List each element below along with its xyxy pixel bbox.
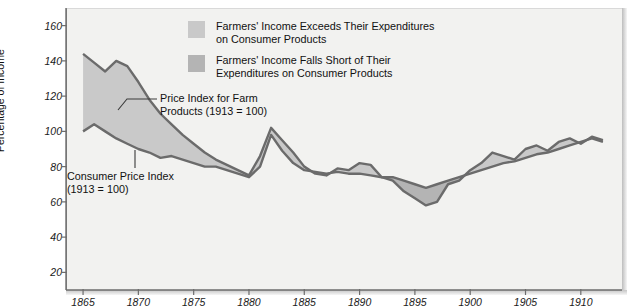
panel-bevel-bottom (66, 290, 627, 295)
panel-bevel-right (622, 8, 627, 294)
x-axis-ticks: 1865187018751880188518901895190019051910 (66, 296, 622, 308)
legend-label-income-exceeds: Farmers' Income Exceeds Their Expenditur… (216, 20, 438, 45)
y-tick-label: 120 (44, 90, 62, 102)
chart-legend: Farmers' Income Exceeds Their Expenditur… (188, 20, 438, 88)
x-tick-label: 1865 (71, 296, 94, 308)
y-tick-label: 40 (50, 231, 62, 243)
legend-swatch-income-exceeds (188, 21, 205, 38)
legend-item: Farmers' Income Exceeds Their Expenditur… (188, 20, 438, 45)
legend-item: Farmers' Income Falls Short of Their Exp… (188, 54, 438, 79)
legend-swatch-income-falls-short (188, 55, 205, 72)
x-tick-label: 1890 (348, 296, 371, 308)
y-axis-ticks: 16014012010080604020 (0, 8, 62, 290)
y-tick-label: 80 (50, 161, 62, 173)
y-tick-label: 60 (50, 196, 62, 208)
chart-figure: Percentage of Income 1601401201008060402… (0, 0, 634, 308)
x-tick-label: 1870 (127, 296, 150, 308)
legend-label-income-falls-short: Farmers' Income Falls Short of Their Exp… (216, 54, 438, 79)
y-tick-label: 160 (44, 20, 62, 32)
x-tick-label: 1905 (514, 296, 537, 308)
x-tick-label: 1895 (403, 296, 426, 308)
x-tick-label: 1900 (459, 296, 482, 308)
x-tick-label: 1910 (569, 296, 592, 308)
annotation-consumer-price-index: Consumer Price Index (1913 = 100) (67, 170, 174, 195)
x-tick-label: 1875 (182, 296, 205, 308)
annotation-farm-price-index: Price Index for Farm Products (1913 = 10… (160, 92, 267, 117)
y-tick-label: 100 (44, 125, 62, 137)
x-tick-label: 1885 (293, 296, 316, 308)
y-tick-label: 140 (44, 55, 62, 67)
y-tick-label: 20 (50, 266, 62, 278)
x-tick-label: 1880 (237, 296, 260, 308)
